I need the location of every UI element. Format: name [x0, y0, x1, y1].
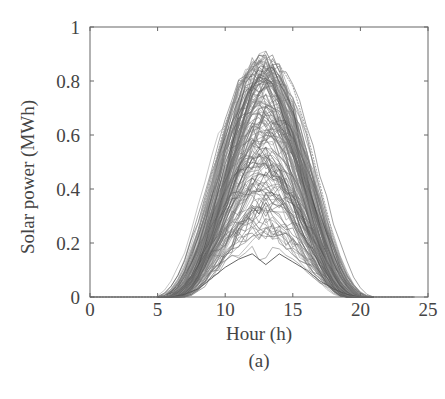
daily-profile-curves: [90, 51, 415, 297]
y-tick-label: 0.2: [56, 233, 80, 254]
y-tick-label: 0.4: [56, 179, 80, 200]
x-tick-label: 20: [351, 299, 370, 320]
x-tick-label: 0: [85, 299, 95, 320]
x-tick-label: 25: [419, 299, 438, 320]
y-tick-label: 0.6: [56, 125, 80, 146]
y-tick-label: 0.8: [56, 71, 80, 92]
y-tick-label: 0: [71, 287, 81, 308]
y-tick-label: 1: [71, 17, 81, 38]
y-axis-label: Solar power (MWh): [17, 100, 39, 254]
x-tick-label: 10: [216, 299, 235, 320]
solar-power-chart: 0510152025 00.20.40.60.81 Hour (h) Solar…: [0, 0, 445, 399]
x-tick-label: 15: [283, 299, 302, 320]
figure-caption: (a): [248, 350, 269, 372]
envelope-min-line: [90, 254, 415, 297]
x-axis-label: Hour (h): [226, 323, 292, 345]
x-tick-label: 5: [153, 299, 163, 320]
